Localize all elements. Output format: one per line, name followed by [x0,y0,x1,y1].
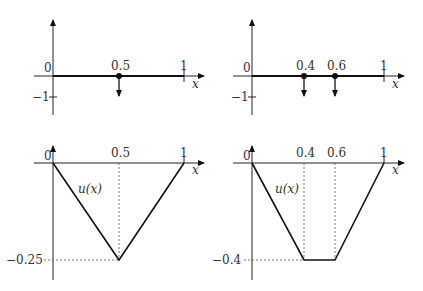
left-label: 0.4 [296,146,315,160]
x-axis-label: x [192,163,199,177]
min-label: −0.4 [212,253,242,267]
curve-label: u(x) [78,182,102,196]
panel-bottom-left: 0 0.5 1 x u(x) −0.25 [6,146,204,280]
point-label-left: 0.4 [296,59,315,73]
panel-top-right: 0 −1 0.4 0.6 1 x [231,20,404,115]
min-label: −0.25 [6,253,43,267]
origin-label: 0 [243,61,251,75]
origin-label: 0 [243,149,251,163]
deflection-curve [53,163,184,260]
curve-label: u(x) [275,182,299,196]
point-label-right: 0.6 [327,59,346,73]
right-label: 0.6 [327,146,346,160]
x-axis-label: x [392,163,399,177]
panel-bottom-right: 0 0.4 0.6 1 x u(x) −0.4 [212,146,404,280]
one-label: 1 [180,146,188,160]
deflection-curve [252,163,384,260]
one-label: 1 [380,59,388,73]
x-axis-label: x [392,77,399,91]
one-label: 1 [380,146,388,160]
origin-label: 0 [44,149,52,163]
panel-top-left: 0 −1 0.5 1 x [32,20,204,115]
one-label: 1 [180,59,188,73]
minus-one-label: −1 [32,90,50,104]
origin-label: 0 [44,61,52,75]
point-label: 0.5 [111,59,130,73]
minus-one-label: −1 [231,90,249,104]
figure: 0 −1 0.5 1 x 0 −1 0.4 0.6 1 x 0 0.5 1 x [0,0,423,291]
x-axis-label: x [192,77,199,91]
mid-label: 0.5 [111,146,130,160]
